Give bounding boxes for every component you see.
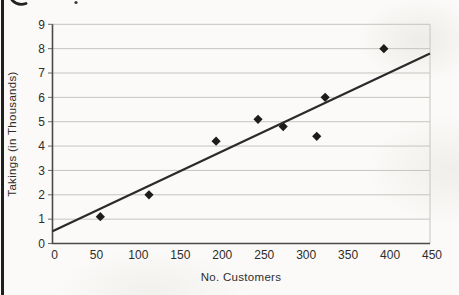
x-tick-label: 350 (338, 248, 358, 262)
x-tick-label: 100 (128, 248, 148, 262)
x-tick-label: 450 (422, 248, 442, 262)
chart-layers: 0123456789050100150200250300350400450 (38, 18, 442, 263)
scatter-point (312, 132, 321, 141)
y-tick-label: 6 (38, 91, 45, 105)
scatter-point (96, 212, 105, 221)
y-tick-label: 9 (38, 18, 45, 32)
y-tick-label: 4 (38, 139, 45, 153)
x-tick-label: 250 (254, 248, 274, 262)
scatter-chart: 0123456789050100150200250300350400450 Ta… (0, 0, 459, 295)
scatter-point (253, 115, 262, 124)
scatter-point (379, 44, 388, 53)
scanned-page: 0123456789050100150200250300350400450 Ta… (0, 0, 459, 295)
x-tick-label: 400 (380, 248, 400, 262)
y-tick-label: 3 (38, 164, 45, 178)
y-tick-label: 7 (38, 66, 45, 80)
x-tick-label: 50 (90, 248, 104, 262)
x-tick-label: 300 (296, 248, 316, 262)
x-tick-label: 150 (170, 248, 190, 262)
x-tick-label: 200 (212, 248, 232, 262)
x-tick-label: 0 (51, 248, 58, 262)
y-tick-label: 5 (38, 115, 45, 129)
y-tick-label: 2 (38, 188, 45, 202)
y-tick-label: 1 (38, 212, 45, 226)
y-tick-label: 0 (38, 237, 45, 251)
y-tick-label: 8 (38, 42, 45, 56)
scatter-point (144, 190, 153, 199)
scatter-point (211, 137, 220, 146)
y-axis-title: Takings (in Thousands) (6, 71, 18, 196)
x-axis-title: No. Customers (201, 271, 282, 283)
line-of-best-fit (53, 54, 431, 232)
